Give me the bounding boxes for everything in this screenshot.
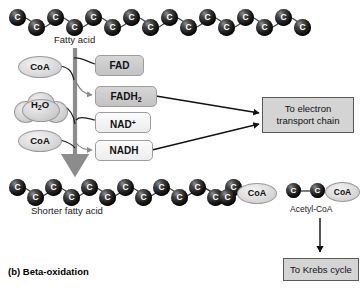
carbon-atom: C <box>275 9 292 26</box>
carbon-atom: C <box>9 179 26 196</box>
beta-oxidation-figure: C C C C C C C C C C C C C C C C Fatty ac… <box>0 0 363 288</box>
etc-line-2: transport chain <box>277 115 340 128</box>
carbon-atom: C <box>218 19 235 36</box>
coa-reactant-bottom: CoA <box>18 130 62 152</box>
shorter-fatty-acid-label: Shorter fatty acid <box>31 205 103 216</box>
carbon-atom: C <box>123 9 140 26</box>
carbon-atom: C <box>256 19 273 36</box>
nad-superscript: + <box>132 119 136 126</box>
fatty-acid-label: Fatty acid <box>54 34 95 45</box>
fadh2-box: FADH2 <box>95 86 157 107</box>
water-label-text: H <box>31 99 38 110</box>
water-reactant: H2O <box>14 92 66 122</box>
water-label: H2O <box>14 99 66 111</box>
carbon-atom: C <box>81 179 98 196</box>
carbon-atom: C <box>28 19 45 36</box>
carbon-atom: C <box>104 19 121 36</box>
carbon-atom: C <box>9 9 26 26</box>
carbon-atom: C <box>294 19 311 36</box>
carbon-atom: C <box>99 189 116 206</box>
nad-plus-box: NAD+ <box>95 112 151 133</box>
etc-line-1: To electron <box>277 103 340 116</box>
acetyl-coa-label-oval: CoA <box>325 182 360 202</box>
carbon-atom: C <box>237 9 254 26</box>
coa-reactant-top: CoA <box>18 56 62 78</box>
carbon-atom: C <box>135 189 152 206</box>
fadh2-to-etc-line <box>156 96 259 113</box>
fad-box: FAD <box>95 55 144 76</box>
carbon-atom: C <box>153 179 170 196</box>
carbon-atom: C <box>85 9 102 26</box>
carbon-atom: C <box>161 9 178 26</box>
carbon-atom: C <box>189 179 206 196</box>
carbon-atom: C <box>27 189 44 206</box>
nad-label: NAD <box>110 119 132 130</box>
figure-caption: (b) Beta-oxidation <box>8 266 89 277</box>
carbon-atom: C <box>199 9 216 26</box>
carbon-atom: C <box>310 183 325 198</box>
carbon-atom: C <box>63 189 80 206</box>
krebs-cycle-box: To Krebs cycle <box>283 258 359 281</box>
carbon-atom: C <box>117 179 134 196</box>
acetyl-coa-label: Acetyl-CoA <box>290 204 333 214</box>
carbon-atom: C <box>142 19 159 36</box>
nadh-box: NADH <box>95 140 153 161</box>
nadh-to-etc-line <box>152 124 259 150</box>
carbon-atom: C <box>286 183 301 198</box>
fadh2-label: FADH <box>110 91 137 102</box>
electron-transport-chain-box: To electron transport chain <box>262 97 354 133</box>
water-label-tail: O <box>42 99 49 110</box>
carbon-atom: C <box>171 189 188 206</box>
carbon-atom: C <box>219 189 236 206</box>
carbon-atom: C <box>180 19 197 36</box>
fadh2-subscript: 2 <box>138 96 142 103</box>
shorter-chain-coa: CoA <box>237 183 277 204</box>
carbon-atom: C <box>45 179 62 196</box>
carbon-atom: C <box>47 9 64 26</box>
